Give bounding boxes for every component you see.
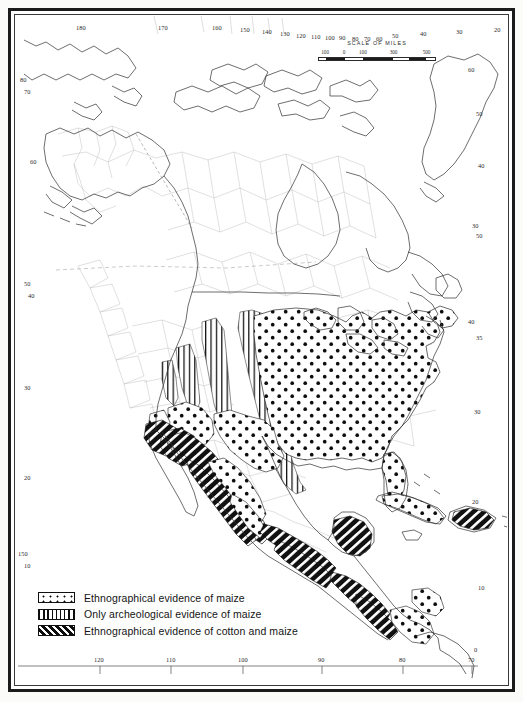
grat-right-4: 50 [476,232,482,239]
legend-label-diagonal: Ethnographical evidence of cotton and ma… [84,625,298,637]
scale-tick-4: 500 [423,49,431,55]
grat-top-16: 20 [494,26,500,33]
map-page: 180 170 160 150 140 130 120 110 100 90 8… [0,0,523,702]
grat-top-0: 180 [76,24,86,31]
grat-right-0: 60 [468,66,474,73]
grat-top-2: 160 [212,24,222,31]
grat-top-13: 50 [392,32,398,39]
map-plate: 180 170 160 150 140 130 120 110 100 90 8… [16,16,507,684]
north-america-map: 180 170 160 150 140 130 120 110 100 90 8… [16,16,507,684]
grat-left-4: 40 [28,292,34,299]
grat-left-2: 60 [30,158,36,165]
scale-tick-0: 100 [321,49,329,55]
grat-left-1: 70 [24,88,30,95]
scale-title: SCALE OF MILES [318,40,436,46]
scale-segment-2 [363,58,393,60]
legend-swatch-dots-icon [38,592,75,603]
grat-bottom-2: 100 [238,656,248,663]
grat-left-3: 50 [24,280,30,287]
scale-tick-2: 100 [359,49,367,55]
legend-label-dots: Ethnographical evidence of maize [84,592,245,604]
grat-top-15: 30 [456,28,462,35]
scale-segment-1 [326,58,345,60]
grat-top-5: 130 [280,30,290,37]
legend-item-vertical: Only archeological evidence of maize [38,607,378,622]
grat-left-5: 30 [24,384,30,391]
grat-bottom-0: 120 [94,656,104,663]
grat-right-2: 40 [478,162,484,169]
grat-right-7: 30 [474,408,480,415]
grat-top-3: 150 [240,26,250,33]
legend-item-dots: Ethnographical evidence of maize [38,590,378,605]
map-legend: Ethnographical evidence of maize Only ar… [38,590,378,640]
grat-bottom-corner: 0 [474,646,477,653]
grat-right-1: 50 [476,110,482,117]
scale-tick-labels: 100 0 100 300 500 [318,49,436,57]
scale-tick-3: 300 [390,49,398,55]
scale-tick-1: 0 [343,49,346,55]
scale-bar [318,57,436,61]
scale-segment-3 [409,58,425,60]
legend-swatch-vertical-icon [38,609,75,620]
scale-bar-block: SCALE OF MILES 100 0 100 300 500 [318,40,436,61]
grat-right-3: 30 [472,222,478,229]
grat-left-7: 150 [18,550,28,557]
grat-bottom-1: 110 [166,656,175,663]
grat-top-7: 110 [311,33,320,40]
grat-right-5: 40 [468,318,474,325]
grat-left-8: 10 [24,562,30,569]
grat-bottom-5: 70 [468,656,474,663]
grat-right-9: 10 [478,584,484,591]
grat-bottom-3: 90 [318,656,324,663]
grat-right-6: 35 [476,334,482,341]
grat-left-6: 20 [24,474,30,481]
grat-top-4: 140 [262,28,272,35]
legend-swatch-diagonal-icon [38,625,75,636]
legend-item-diagonal: Ethnographical evidence of cotton and ma… [38,623,378,638]
grat-top-6: 120 [296,32,306,39]
grat-left-0: 80 [20,76,26,83]
grat-right-8: 20 [472,498,478,505]
grat-top-1: 170 [158,24,168,31]
legend-label-vertical: Only archeological evidence of maize [84,608,262,620]
grat-top-14: 40 [420,30,426,37]
grat-bottom-4: 80 [399,656,405,663]
